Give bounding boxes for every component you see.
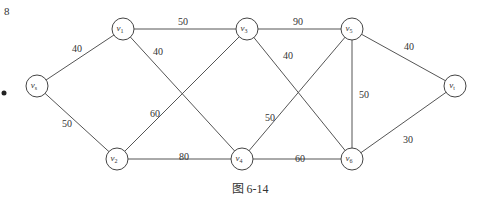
edge-v3-v6 xyxy=(247,29,352,159)
corner-mark: 8 xyxy=(4,5,10,17)
edge-v4-v5 xyxy=(242,29,352,159)
edge-weight-label: 50 xyxy=(178,16,188,27)
edge-vs-v2 xyxy=(37,86,117,159)
edge-vs-v1 xyxy=(37,29,123,86)
edge-weight-label: 50 xyxy=(62,118,72,129)
edge-weight-label: 40 xyxy=(283,50,293,61)
edge-v2-v3 xyxy=(117,29,247,159)
graph-figure: 8 40505040608090405060504030 vsv1v2v3v4v… xyxy=(0,0,485,200)
edge-weight-label: 30 xyxy=(403,134,413,145)
node-v2: v2 xyxy=(106,148,128,170)
edge-v5-vt xyxy=(352,29,455,86)
node-vt: vt xyxy=(444,75,466,97)
edge-weight-label: 50 xyxy=(265,112,275,123)
node-v1: v1 xyxy=(112,18,134,40)
node-circle xyxy=(444,75,466,97)
margin-dot xyxy=(2,91,7,96)
node-vs: vs xyxy=(26,75,48,97)
node-v3: v3 xyxy=(236,18,258,40)
figure-caption: 图 6-14 xyxy=(232,182,269,196)
edge-weight-label: 40 xyxy=(72,43,82,54)
node-v4: v4 xyxy=(231,148,253,170)
edge-weight-label: 90 xyxy=(293,16,303,27)
edge-weight-label: 40 xyxy=(404,41,414,52)
edges-layer xyxy=(37,29,455,159)
edge-weight-label: 60 xyxy=(150,108,160,119)
edge-weight-label: 60 xyxy=(295,153,305,164)
edge-weight-label: 80 xyxy=(179,151,189,162)
edge-weight-label: 50 xyxy=(359,89,369,100)
node-v5: v5 xyxy=(341,18,363,40)
network-graph: 8 40505040608090405060504030 vsv1v2v3v4v… xyxy=(0,0,485,200)
edge-weight-label: 40 xyxy=(153,46,163,57)
nodes-layer: vsv1v2v3v4v5v6vt xyxy=(26,18,466,170)
node-v6: v6 xyxy=(341,148,363,170)
